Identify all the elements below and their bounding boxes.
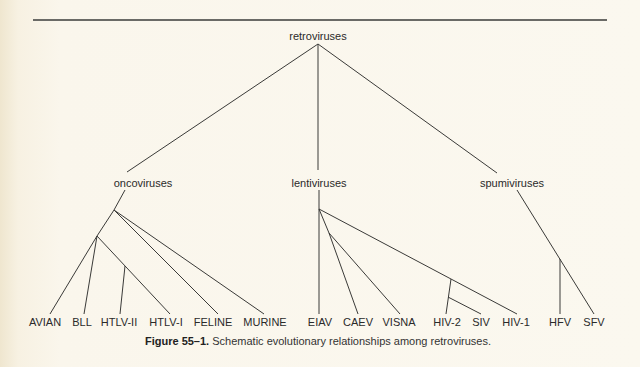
figure-caption: Figure 55–1. Schematic evolutionary rela…: [0, 335, 638, 347]
caption-number: Figure 55–1.: [145, 335, 209, 347]
leaf-label: HIV-2: [433, 316, 461, 328]
leaf-label: VISNA: [382, 316, 415, 328]
tree-edge: [114, 210, 264, 314]
leaf-label: CAEV: [343, 316, 373, 328]
tree-edge: [517, 190, 594, 314]
leaf-label: HTLV-I: [149, 316, 182, 328]
leaf-label: HTLV-II: [101, 316, 137, 328]
leaf-label: SFV: [583, 316, 604, 328]
leaf-label: SIV: [472, 316, 490, 328]
group-label-spumiviruses: spumiviruses: [480, 177, 544, 189]
tree-edge: [97, 236, 170, 314]
tree-edge: [319, 209, 329, 233]
leaf-label: HFV: [549, 316, 571, 328]
leaf-label: BLL: [72, 316, 92, 328]
root-label-retroviruses: retroviruses: [289, 30, 346, 42]
tree-edge: [97, 210, 114, 236]
tree-edge: [114, 190, 125, 210]
caption-text: Schematic evolutionary relationships amo…: [209, 335, 491, 347]
group-label-oncoviruses: oncoviruses: [114, 177, 173, 189]
leaf-label: EIAV: [308, 316, 332, 328]
leaf-label: AVIAN: [29, 316, 61, 328]
tree-edge: [318, 44, 497, 173]
group-label-lentiviruses: lentiviruses: [291, 177, 346, 189]
tree-edge: [127, 44, 318, 172]
leaf-label: HIV-1: [502, 316, 530, 328]
tree-edge: [329, 233, 400, 314]
tree-edge: [446, 279, 451, 314]
tree-edge: [329, 233, 358, 314]
leaf-label: MURINE: [243, 316, 286, 328]
tree-edge: [448, 297, 481, 314]
tree-edge: [50, 236, 97, 314]
leaf-label: FELINE: [194, 316, 233, 328]
tree-edge: [120, 266, 125, 314]
tree-edge: [319, 209, 517, 314]
tree-edge: [114, 210, 218, 314]
